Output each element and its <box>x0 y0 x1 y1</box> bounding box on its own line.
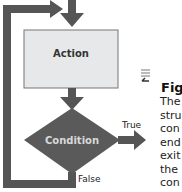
caption-line: stru <box>160 109 182 123</box>
arrow-down-icon <box>60 13 84 27</box>
action-box <box>24 30 118 88</box>
caption-line: The <box>160 95 182 109</box>
true-label: True <box>122 120 141 130</box>
loop-arrowhead-icon <box>50 0 63 18</box>
caption-line: con <box>160 122 182 136</box>
caption-line: the <box>160 163 182 177</box>
caption-line: end <box>160 136 182 150</box>
false-label: False <box>78 174 101 184</box>
figure-caption: The stru con end exit the con <box>160 95 182 190</box>
flowchart-diagram: Action Condition True False Fig The stru… <box>0 0 182 192</box>
flowchart-lines <box>0 0 182 192</box>
caption-line: exit <box>160 149 182 163</box>
figure-title: Fig <box>161 80 182 95</box>
condition-label: Condition <box>24 135 120 146</box>
action-label: Action <box>24 48 118 59</box>
caption-line: con <box>160 176 182 190</box>
arrow-right-icon <box>134 130 146 150</box>
